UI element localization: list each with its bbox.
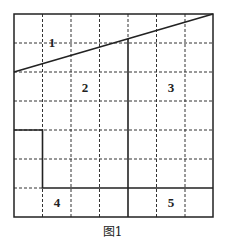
region-label-1: 1 [49, 35, 56, 50]
grid-diagram: 1 2 3 4 5 [0, 0, 225, 238]
dashed-grid [14, 14, 213, 217]
region-label-2: 2 [82, 80, 89, 95]
region-label-5: 5 [168, 195, 175, 210]
region-label-4: 4 [54, 195, 61, 210]
partition-lines [14, 14, 213, 217]
diagonal-line [14, 14, 213, 72]
region-label-3: 3 [168, 80, 175, 95]
left-notch [14, 130, 213, 188]
figure-caption: 图1 [0, 222, 225, 238]
outer-border [14, 14, 213, 217]
